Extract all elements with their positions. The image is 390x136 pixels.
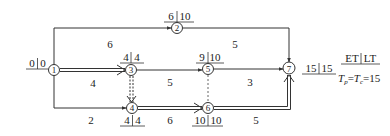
svg-text:7: 7: [287, 64, 292, 74]
node-7: 7: [283, 62, 295, 74]
node-3: 3: [126, 65, 137, 76]
svg-text:10: 10: [210, 51, 222, 63]
activity-3-4-dummy: [127, 76, 136, 102]
duration-6-7: 5: [253, 114, 259, 126]
svg-text:4: 4: [134, 51, 140, 63]
svg-text:6: 6: [206, 103, 211, 113]
duration-3-5: 5: [167, 76, 173, 88]
node-7-times: 15 15: [302, 62, 336, 74]
legend-formula: Tp=Tc=15: [338, 72, 381, 86]
svg-text:4: 4: [124, 114, 130, 126]
svg-text:9: 9: [199, 51, 205, 63]
svg-text:3: 3: [129, 65, 134, 75]
legend-et: ET: [345, 52, 359, 64]
node-1-times: 0 0: [26, 57, 48, 69]
duration-2-7: 5: [232, 38, 238, 50]
node-2-times: 6 10: [164, 10, 194, 22]
duration-1-3: 4: [90, 77, 96, 89]
node-2: 2: [172, 23, 183, 34]
duration-1-4: 2: [88, 114, 94, 126]
node-5: 5: [203, 64, 214, 75]
node-4: 4: [127, 103, 138, 114]
svg-text:10: 10: [211, 114, 223, 126]
node-5-times: 9 10: [196, 51, 224, 63]
svg-text:10: 10: [180, 10, 192, 22]
activity-1-3: [60, 65, 125, 75]
node-1: 1: [49, 65, 60, 76]
node-6: 6: [203, 103, 214, 114]
legend: ET LT Tp=Tc=15: [338, 52, 381, 86]
node-3-times: 4 4: [120, 51, 144, 63]
svg-text:4: 4: [130, 103, 135, 113]
svg-text:5: 5: [206, 64, 211, 74]
network-diagram: 6 5 4 5 3 2 6 5 1 2 3 4 5 6 7 0 0 6: [0, 0, 390, 136]
legend-lt: LT: [364, 52, 377, 64]
svg-text:2: 2: [175, 23, 180, 33]
svg-text:0: 0: [29, 57, 35, 69]
svg-text:6: 6: [168, 10, 174, 22]
svg-text:4: 4: [123, 51, 129, 63]
duration-5-7: 3: [247, 76, 253, 88]
svg-text:0: 0: [40, 57, 46, 69]
svg-text:15: 15: [306, 62, 318, 74]
svg-text:1: 1: [52, 65, 57, 75]
node-6-times: 10 10: [192, 114, 223, 126]
svg-text:10: 10: [195, 114, 207, 126]
svg-text:4: 4: [135, 114, 141, 126]
activity-6-7: [214, 75, 294, 110]
svg-text:15: 15: [322, 62, 334, 74]
activity-4-6: [138, 103, 202, 113]
node-4-times: 4 4: [120, 114, 145, 126]
duration-4-6: 6: [167, 114, 173, 126]
duration-1-2: 6: [107, 38, 113, 50]
